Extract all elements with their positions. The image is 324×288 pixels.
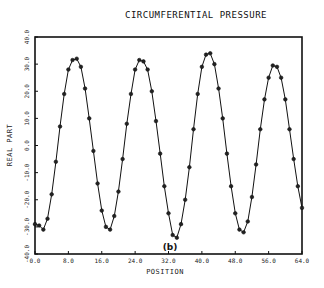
data-point: [58, 125, 62, 129]
data-point: [142, 60, 146, 64]
x-tick-label: 56.0: [261, 257, 276, 264]
data-point: [163, 184, 167, 188]
data-point: [117, 190, 121, 194]
data-point: [217, 87, 221, 91]
data-point: [267, 76, 271, 80]
data-point: [275, 65, 279, 69]
data-point: [62, 92, 66, 96]
data-point: [137, 58, 141, 62]
data-point: [300, 206, 304, 210]
data-point: [221, 117, 225, 121]
data-line: [35, 53, 302, 237]
data-point: [121, 157, 125, 161]
x-tick-label: 24.0: [128, 257, 143, 264]
data-point: [108, 228, 112, 232]
x-axis-label: POSITION: [146, 268, 184, 276]
data-point: [37, 224, 41, 228]
data-point: [213, 62, 217, 66]
data-point: [225, 152, 229, 156]
data-point: [154, 119, 158, 123]
data-point: [284, 98, 288, 102]
data-point: [42, 228, 46, 232]
data-point: [79, 65, 83, 69]
data-point: [112, 214, 116, 218]
data-point: [200, 65, 204, 69]
data-point: [208, 51, 212, 55]
data-point: [46, 217, 50, 221]
data-point: [204, 53, 208, 57]
data-point: [133, 68, 137, 72]
data-point: [92, 149, 96, 153]
data-point: [104, 225, 108, 229]
data-point: [125, 122, 129, 126]
data-point: [183, 198, 187, 202]
plot-frame: [35, 37, 302, 254]
data-point: [263, 98, 267, 102]
data-point: [238, 228, 242, 232]
data-point: [175, 236, 179, 240]
y-axis-label: REAL PART: [6, 124, 14, 167]
data-point: [192, 127, 196, 131]
data-point: [292, 157, 296, 161]
y-tick-label: 0.0: [23, 140, 30, 151]
data-point: [100, 209, 104, 213]
panel-label: (b): [163, 242, 178, 252]
y-tick-label: -40.0: [23, 245, 30, 263]
data-point: [150, 89, 154, 93]
data-point: [279, 76, 283, 80]
data-point: [129, 92, 133, 96]
data-point: [296, 184, 300, 188]
x-axis-ticks: 0.08.016.024.032.040.048.056.064.0: [30, 251, 310, 264]
y-tick-label: -20.0: [23, 190, 30, 208]
data-point: [83, 87, 87, 91]
data-point: [87, 117, 91, 121]
data-point: [67, 68, 71, 72]
data-point: [229, 184, 233, 188]
data-point: [254, 163, 258, 167]
data-point: [196, 92, 200, 96]
data-point: [171, 233, 175, 237]
x-tick-label: 0.0: [30, 257, 41, 264]
data-point: [250, 195, 254, 199]
line-chart: 0.08.016.024.032.040.048.056.064.0 -40.0…: [0, 0, 324, 288]
data-point: [233, 212, 237, 216]
data-point: [246, 220, 250, 224]
data-point: [50, 193, 54, 197]
x-tick-label: 16.0: [95, 257, 110, 264]
y-tick-label: 40.0: [23, 29, 30, 44]
y-tick-label: 20.0: [23, 84, 30, 99]
data-point: [179, 222, 183, 226]
x-tick-label: 32.0: [161, 257, 176, 264]
data-point: [54, 160, 58, 164]
y-tick-label: -30.0: [23, 217, 30, 235]
data-point: [96, 182, 100, 186]
x-tick-label: 48.0: [228, 257, 243, 264]
data-point: [33, 222, 37, 226]
y-tick-label: 10.0: [23, 111, 30, 126]
data-point: [271, 64, 275, 68]
data-point: [188, 165, 192, 169]
x-tick-label: 40.0: [195, 257, 210, 264]
data-point: [288, 127, 292, 131]
y-tick-label: -10.0: [23, 163, 30, 181]
data-markers: [33, 51, 304, 239]
data-point: [258, 127, 262, 131]
x-tick-label: 8.0: [63, 257, 74, 264]
data-point: [146, 68, 150, 72]
x-tick-label: 64.0: [295, 257, 310, 264]
data-point: [75, 57, 79, 61]
data-point: [71, 58, 75, 62]
data-point: [158, 152, 162, 156]
data-point: [242, 231, 246, 235]
data-point: [167, 212, 171, 216]
y-tick-label: 30.0: [23, 57, 30, 72]
